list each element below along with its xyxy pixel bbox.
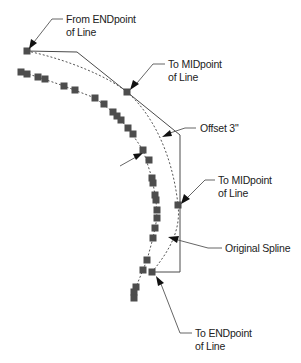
offset-marker <box>18 69 25 76</box>
midpoint-right-marker <box>175 202 182 209</box>
offset-marker <box>131 295 138 302</box>
arrow-icon <box>181 194 190 204</box>
offset-marker <box>144 257 151 264</box>
endpoint-end-marker <box>149 269 156 276</box>
callout-to-midpoint-top: To MIDpoint of Line <box>130 58 222 90</box>
offset-distance-indicator <box>120 153 143 166</box>
offset-marker <box>24 71 31 78</box>
offset-marker <box>92 95 99 102</box>
from-endpoint-label-line2: of Line <box>66 26 96 38</box>
arrow-icon <box>133 153 143 160</box>
offset-marker <box>35 74 42 81</box>
offset-marker <box>154 215 161 222</box>
offset-marker <box>153 197 160 204</box>
construction-line <box>27 51 180 272</box>
offset-marker <box>130 131 137 138</box>
offset-marker <box>125 125 132 132</box>
offset-markers <box>18 69 161 302</box>
to-endpoint-label-line1: To ENDpoint <box>195 327 252 339</box>
offset-marker <box>150 180 157 187</box>
callout-to-midpoint-right: To MIDpoint of Line <box>181 174 272 204</box>
callout-original-spline: Original Spline <box>168 236 291 254</box>
offset-marker <box>152 225 159 232</box>
spline-offset-diagram: From ENDpoint of Line To MIDpoint of Lin… <box>0 0 301 363</box>
arrow-icon <box>156 276 164 286</box>
offset-marker <box>154 207 161 214</box>
arrow-icon <box>29 39 37 49</box>
offset-polyline <box>21 72 157 298</box>
offset-marker <box>101 101 108 108</box>
offset-marker <box>42 76 49 83</box>
to-midpoint-right-label-line2: of Line <box>218 187 248 199</box>
to-midpoint-right-label-line1: To MIDpoint <box>218 174 272 186</box>
offset-marker <box>118 117 125 124</box>
arrow-icon <box>162 130 172 137</box>
offset-label: Offset 3" <box>200 122 239 134</box>
offset-marker <box>140 267 147 274</box>
to-endpoint-label-line2: of Line <box>195 340 225 352</box>
arrow-icon <box>130 80 139 90</box>
midpoint-top-marker <box>124 89 131 96</box>
offset-marker <box>131 289 138 296</box>
arrow-icon <box>168 236 179 243</box>
offset-marker <box>61 83 68 90</box>
offset-marker <box>146 157 153 164</box>
to-midpoint-top-label-line1: To MIDpoint <box>168 58 222 70</box>
to-midpoint-top-label-line2: of Line <box>168 71 198 83</box>
callout-from-endpoint: From ENDpoint of Line <box>29 13 136 49</box>
from-endpoint-label-line1: From ENDpoint <box>66 13 136 25</box>
original-spline-label: Original Spline <box>225 242 291 254</box>
offset-marker <box>72 87 79 94</box>
offset-marker <box>140 147 147 154</box>
callout-to-endpoint: To ENDpoint of Line <box>156 276 252 352</box>
offset-marker <box>150 235 157 242</box>
